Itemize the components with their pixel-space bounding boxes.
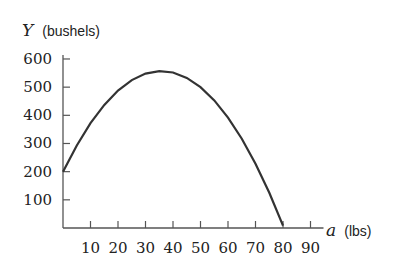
y-tick-label: 100	[23, 191, 52, 209]
y-axis: 100200300400500600	[23, 50, 70, 228]
x-tick-label: 10	[81, 239, 100, 257]
x-tick-label: 20	[108, 239, 127, 257]
yield-curve	[63, 71, 283, 226]
x-tick-label: 70	[246, 239, 265, 257]
chart: 100200300400500600 102030405060708090 Y …	[0, 0, 395, 279]
x-tick-label: 50	[191, 239, 210, 257]
x-tick-label: 60	[218, 239, 237, 257]
y-tick-label: 200	[23, 163, 52, 181]
x-tick-label: 30	[136, 239, 155, 257]
y-tick-label: 600	[23, 50, 52, 68]
x-tick-label: 80	[273, 239, 292, 257]
x-axis: 102030405060708090	[63, 221, 324, 257]
x-tick-label: 90	[301, 239, 320, 257]
y-tick-label: 400	[23, 106, 52, 124]
x-axis-title: a (lbs)	[326, 220, 371, 240]
x-tick-label: 40	[163, 239, 182, 257]
y-tick-label: 500	[23, 78, 52, 96]
y-axis-title: Y (bushels)	[22, 20, 100, 40]
y-tick-label: 300	[23, 134, 52, 152]
